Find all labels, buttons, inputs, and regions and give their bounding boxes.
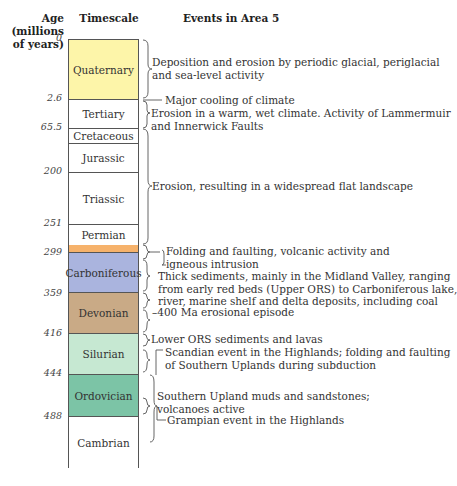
event-line: from early red beds (Upper ORS) to Carbo…	[158, 283, 457, 296]
event-line: Scandian event in the Highlands; folding…	[165, 346, 450, 359]
event-scandian: Scandian event in the Highlands; folding…	[165, 346, 450, 371]
event-line: and sea-level activity	[152, 69, 440, 82]
event-line: of Southern Uplands during subduction	[165, 359, 450, 372]
event-erosion-flat-landscape: Erosion, resulting in a widespread flat …	[152, 180, 413, 193]
event-line: Lower ORS sediments and lavas	[151, 333, 323, 346]
event-line: 400 Ma erosional episode	[157, 306, 294, 318]
event-line: igneous intrusion	[166, 258, 390, 271]
event-400ma-erosional: –400 Ma erosional episode	[152, 306, 294, 319]
event-line: Major cooling of climate	[165, 94, 295, 107]
event-folding-faulting-volcanic: Folding and faulting, volcanic activity …	[166, 245, 390, 270]
event-line: Southern Upland muds and sandstones;	[157, 390, 370, 403]
event-major-cooling: Major cooling of climate	[165, 94, 295, 107]
event-thick-sediments: Thick sediments, mainly in the Midland V…	[158, 270, 457, 308]
event-line: Grampian event in the Highlands	[167, 414, 344, 427]
event-line: Deposition and erosion by periodic glaci…	[152, 56, 440, 69]
event-quaternary-deposition: Deposition and erosion by periodic glaci…	[152, 56, 440, 81]
event-line: Erosion, resulting in a widespread flat …	[152, 180, 413, 193]
event-line: Erosion in a warm, wet climate. Activity…	[151, 107, 451, 120]
event-line: Folding and faulting, volcanic activity …	[166, 245, 390, 258]
event-line: and Innerwick Faults	[151, 120, 451, 133]
event-line: Thick sediments, mainly in the Midland V…	[158, 270, 457, 283]
event-lower-ors: Lower ORS sediments and lavas	[151, 333, 323, 346]
event-southern-upland-muds: Southern Upland muds and sandstones; vol…	[157, 390, 370, 415]
event-grampian: Grampian event in the Highlands	[167, 414, 344, 427]
event-tertiary-erosion: Erosion in a warm, wet climate. Activity…	[151, 107, 451, 132]
